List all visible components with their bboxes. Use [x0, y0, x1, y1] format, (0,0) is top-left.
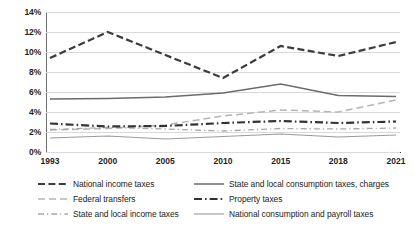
plot-area: 0%2%4%6%8%10%12%14%	[46, 12, 400, 152]
legend-label: Property taxes	[229, 194, 282, 204]
chart-legend: National income taxesState and local con…	[38, 176, 410, 222]
legend-swatch-icon	[38, 194, 68, 204]
x-tick-label: 2005	[156, 156, 175, 166]
series-line	[50, 134, 396, 139]
y-tick-label: 8%	[29, 67, 41, 77]
gridline	[46, 152, 400, 153]
legend-item[interactable]: State and local income taxes	[38, 209, 194, 219]
legend-swatch-icon	[194, 179, 224, 189]
legend-item[interactable]: Property taxes	[194, 194, 410, 204]
legend-item[interactable]: National income taxes	[38, 179, 194, 189]
y-tick-label: 14%	[25, 7, 41, 17]
legend-label: National income taxes	[73, 179, 154, 189]
x-tick-label: 2015	[271, 156, 290, 166]
legend-item[interactable]: Federal transfers	[38, 194, 194, 204]
y-tick-label: 10%	[25, 47, 41, 57]
legend-swatch-icon	[38, 179, 68, 189]
legend-swatch-icon	[38, 209, 68, 219]
y-tick-label: 6%	[29, 87, 41, 97]
y-tick-label: 4%	[29, 107, 41, 117]
series-lines	[46, 12, 400, 152]
series-line	[50, 84, 396, 99]
y-tick-label: 12%	[25, 27, 41, 37]
bottom-spacer	[0, 221, 414, 227]
x-tick-label: 1993	[41, 156, 60, 166]
series-line	[50, 32, 396, 78]
legend-item[interactable]: National consumption and payroll taxes	[194, 209, 410, 219]
x-tick-label: 2018	[329, 156, 348, 166]
x-tick-label: 2000	[98, 156, 117, 166]
legend-label: Federal transfers	[73, 194, 135, 204]
line-chart: 0%2%4%6%8%10%12%14% 19932000200520102015…	[0, 0, 414, 227]
legend-label: State and local income taxes	[73, 209, 179, 219]
legend-label: National consumption and payroll taxes	[229, 209, 373, 219]
x-tick-label: 2021	[387, 156, 406, 166]
series-line	[50, 121, 396, 127]
legend-swatch-icon	[194, 209, 224, 219]
y-tick-label: 0%	[29, 147, 41, 157]
legend-swatch-icon	[194, 194, 224, 204]
x-tick-label: 2010	[214, 156, 233, 166]
y-tick-label: 2%	[29, 127, 41, 137]
legend-label: State and local consumption taxes, charg…	[229, 179, 389, 189]
legend-item[interactable]: State and local consumption taxes, charg…	[194, 179, 410, 189]
series-line	[50, 128, 396, 132]
